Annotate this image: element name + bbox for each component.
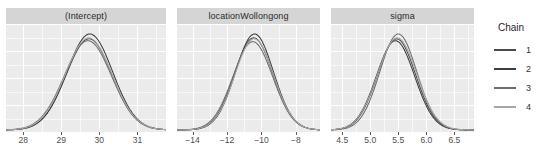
legend-entry-label: 4 [526, 102, 531, 112]
x-axis: 28293031 [6, 132, 166, 147]
legend-entries: 1234 [492, 40, 551, 116]
legend-entry-label: 3 [526, 83, 531, 93]
panel-plot-area [6, 24, 166, 132]
chain-legend: Chain 1234 [492, 22, 551, 116]
x-axis-tick-label: 6.5 [448, 135, 460, 145]
x-axis-tick-label: −14 [185, 135, 199, 145]
x-axis-tick-label: 5.0 [364, 135, 376, 145]
legend-entry[interactable]: 2 [492, 59, 551, 78]
panel-plot-area [331, 24, 474, 132]
x-axis-tick-label: −10 [254, 135, 268, 145]
x-axis-tick-label: 30 [95, 135, 104, 145]
x-axis-tick-label: 29 [57, 135, 66, 145]
x-axis-tick-label: −12 [220, 135, 234, 145]
legend-key-swatch [492, 41, 517, 58]
density-curve-chain-2 [177, 34, 320, 130]
panel-strip-label: (Intercept) [6, 8, 166, 24]
x-axis-tick-label: 31 [133, 135, 142, 145]
x-axis-tick-label: 6.0 [420, 135, 432, 145]
x-axis-tick-label: 28 [18, 135, 27, 145]
x-axis-tick-label: 5.5 [392, 135, 404, 145]
density-curve-chain-4 [177, 39, 320, 130]
legend-entry[interactable]: 4 [492, 97, 551, 116]
density-curve-chain-3 [177, 42, 320, 130]
legend-key-swatch [492, 60, 517, 77]
density-curves [6, 24, 166, 132]
density-curves [177, 24, 320, 132]
density-curve-chain-1 [6, 39, 166, 130]
x-axis-tick-label: −8 [291, 135, 301, 145]
x-axis-tick-label: 4.5 [336, 135, 348, 145]
density-curve-chain-4 [331, 38, 474, 130]
density-curve-chain-3 [331, 34, 474, 130]
x-axis: −14−12−10−8 [177, 132, 320, 147]
density-curve-chain-2 [6, 34, 166, 130]
legend-key-swatch [492, 98, 517, 115]
legend-entry-label: 2 [526, 64, 531, 74]
density-curve-chain-4 [6, 38, 166, 130]
density-curve-chain-2 [331, 41, 474, 130]
density-curves [331, 24, 474, 132]
panel-strip-label: locationWollongong [177, 8, 320, 24]
legend-entry[interactable]: 1 [492, 40, 551, 59]
facet-panel: (Intercept)28293031 [6, 8, 166, 147]
legend-entry[interactable]: 3 [492, 78, 551, 97]
facet-panel: sigma4.55.05.56.06.5 [331, 8, 474, 147]
legend-key-swatch [492, 79, 517, 96]
density-plot-figure: (Intercept)28293031locationWollongong−14… [0, 0, 551, 155]
density-curve-chain-1 [331, 39, 474, 130]
x-axis: 4.55.05.56.06.5 [331, 132, 474, 147]
panel-plot-area [177, 24, 320, 132]
facet-panel: locationWollongong−14−12−10−8 [177, 8, 320, 147]
legend-entry-label: 1 [526, 45, 531, 55]
density-curve-chain-3 [6, 41, 166, 130]
panel-strip-label: sigma [331, 8, 474, 24]
legend-title: Chain [492, 22, 551, 33]
density-curve-chain-1 [177, 38, 320, 130]
